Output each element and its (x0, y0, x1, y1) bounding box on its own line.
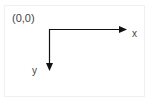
y-axis-label: y (32, 65, 37, 76)
x-axis-label: x (132, 28, 137, 39)
y-axis-arrow (46, 29, 53, 71)
axes (0, 0, 153, 108)
x-axis-arrow (49, 26, 127, 33)
